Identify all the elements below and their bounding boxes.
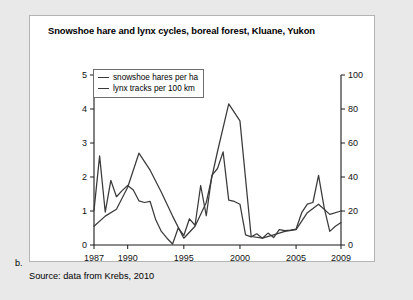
legend-label-lynx: lynx tracks per 100 km	[113, 84, 195, 93]
chart-legend: snowshoe hares per ha lynx tracks per 10…	[93, 69, 204, 98]
y-tick-label-left: 1	[82, 206, 87, 216]
x-tick-label: 2005	[286, 253, 306, 263]
y-tick-label-right: 20	[348, 206, 358, 216]
y-tick-label-left: 4	[82, 104, 87, 114]
y-tick-label-right: 60	[348, 138, 358, 148]
y-tick-label-right: 40	[348, 172, 358, 182]
y-tick-label-left: 0	[82, 240, 87, 250]
x-tick-label: 1987	[84, 253, 104, 263]
series-group	[94, 104, 341, 244]
chart-panel: Snowshoe hare and lynx cycles, boreal fo…	[29, 15, 375, 262]
y-tick-label-right: 0	[348, 240, 353, 250]
series-line-left	[94, 152, 341, 244]
legend-label-hares: snowshoe hares per ha	[113, 73, 198, 82]
x-tick-label: 2000	[230, 253, 250, 263]
x-tick-label: 1990	[118, 253, 138, 263]
series-line-right	[94, 104, 341, 238]
source-note: Source: data from Krebs, 2010	[29, 271, 154, 281]
line-swatch-icon	[98, 77, 109, 78]
y-tick-label-left: 2	[82, 172, 87, 182]
x-tick-label: 2009	[331, 253, 351, 263]
line-swatch-icon	[98, 88, 109, 89]
legend-item-hares: snowshoe hares per ha	[98, 72, 198, 83]
x-tick-label: 1995	[174, 253, 194, 263]
axes-group: 0123450204060801001987199019952000200520…	[82, 70, 363, 263]
plot-area: 0123450204060801001987199019952000200520…	[30, 16, 376, 263]
y-tick-label-left: 5	[82, 70, 87, 80]
y-tick-label-left: 3	[82, 138, 87, 148]
legend-item-lynx: lynx tracks per 100 km	[98, 83, 198, 94]
y-tick-label-right: 100	[348, 70, 363, 80]
y-tick-label-right: 80	[348, 104, 358, 114]
chart-svg: 0123450204060801001987199019952000200520…	[30, 16, 376, 263]
figure-label: b.	[15, 258, 23, 268]
